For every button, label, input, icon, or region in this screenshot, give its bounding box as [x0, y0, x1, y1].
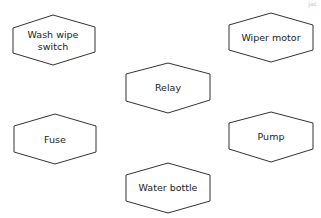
hexagon-shape — [13, 15, 95, 65]
node-relay[interactable]: Relay — [126, 63, 210, 113]
component-diagram: Wash wipe switch Wiper motor Relay Fuse … — [0, 0, 321, 218]
node-label: Pump — [258, 131, 285, 142]
node-wiper-motor[interactable]: Wiper motor — [229, 13, 313, 62]
node-pump[interactable]: Pump — [229, 112, 313, 162]
node-label: Relay — [155, 82, 181, 93]
node-fuse[interactable]: Fuse — [14, 114, 96, 164]
node-label: Water bottle — [139, 182, 198, 193]
node-label: Wiper motor — [241, 32, 300, 43]
node-water-bottle[interactable]: Water bottle — [126, 163, 210, 213]
node-label: Fuse — [44, 134, 66, 145]
node-label-line-2: switch — [38, 41, 68, 52]
node-label-line-1: Wash wipe — [28, 29, 79, 40]
node-wash-wipe-switch[interactable]: Wash wipe switch — [13, 15, 95, 65]
